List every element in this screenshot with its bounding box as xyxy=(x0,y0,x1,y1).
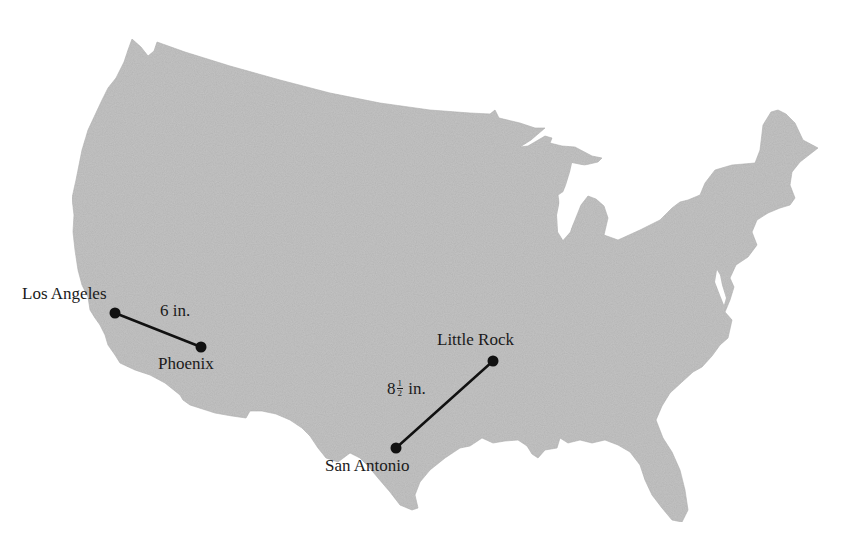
distance-label-la-phoenix: 6 in. xyxy=(160,302,190,319)
distance-fraction: 12 xyxy=(397,379,404,398)
fraction-denominator: 2 xyxy=(397,389,404,398)
distance-whole: 8 xyxy=(387,379,396,398)
city-dot-los-angeles xyxy=(110,308,121,319)
city-dot-phoenix xyxy=(196,342,207,353)
city-label-little-rock: Little Rock xyxy=(437,331,514,348)
distance-label-san-antonio-little-rock: 812 in. xyxy=(387,380,426,400)
us-map: Los Angeles Phoenix Little Rock San Anto… xyxy=(0,0,867,545)
city-label-phoenix: Phoenix xyxy=(158,355,214,372)
city-label-san-antonio: San Antonio xyxy=(325,457,410,474)
city-dot-san-antonio xyxy=(391,443,402,454)
us-outline-map xyxy=(0,0,867,545)
distance-unit: in. xyxy=(408,379,425,398)
city-label-los-angeles: Los Angeles xyxy=(22,285,107,302)
city-dot-little-rock xyxy=(488,356,499,367)
us-landmass xyxy=(72,39,818,522)
